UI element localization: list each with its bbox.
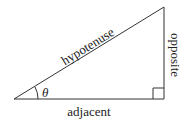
adjacent-label: adjacent [67, 104, 111, 119]
opposite-label: opposite [168, 33, 183, 77]
angle-arc [35, 87, 38, 99]
hypotenuse-label: hypotenuse [58, 24, 117, 68]
right-angle-marker [153, 88, 164, 99]
triangle-diagram: θ hypotenuse opposite adjacent [0, 0, 185, 123]
angle-label: θ [42, 85, 49, 100]
